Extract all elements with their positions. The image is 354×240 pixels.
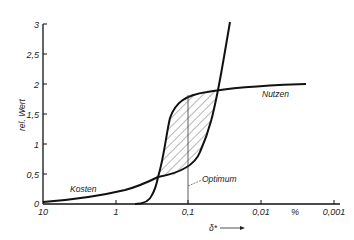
svg-text:0,001: 0,001 bbox=[323, 207, 346, 217]
svg-text:0,01: 0,01 bbox=[252, 207, 270, 217]
y-axis-label: rel. Wert bbox=[17, 98, 27, 131]
svg-text:0,1: 0,1 bbox=[182, 207, 195, 217]
svg-text:2: 2 bbox=[33, 80, 39, 90]
svg-text:3: 3 bbox=[34, 20, 39, 30]
chart: 3 2,5 2 1,5 1 0,5 0 rel. Wert 10 1 0,1 0… bbox=[0, 0, 354, 240]
svg-text:0,5: 0,5 bbox=[26, 170, 40, 180]
x-tick-labels: 10 1 0,1 0,01 % 0,001 bbox=[38, 207, 345, 217]
arrow-head-icon bbox=[240, 226, 245, 230]
svg-text:%: % bbox=[291, 207, 299, 217]
svg-text:2,5: 2,5 bbox=[25, 50, 40, 60]
optimum-label: Optimum bbox=[202, 174, 236, 184]
x-axis-label: δ* bbox=[209, 223, 218, 233]
nutzen-label: Nutzen bbox=[262, 89, 289, 99]
nutzen-curve bbox=[135, 84, 306, 204]
y-tick-labels: 3 2,5 2 1,5 1 0,5 0 bbox=[25, 20, 40, 209]
svg-text:1: 1 bbox=[113, 207, 118, 217]
svg-text:1,5: 1,5 bbox=[26, 110, 40, 120]
svg-text:1: 1 bbox=[34, 140, 39, 150]
kosten-label: Kosten bbox=[70, 184, 97, 194]
svg-text:10: 10 bbox=[38, 207, 48, 217]
optimum-leader bbox=[188, 180, 202, 186]
